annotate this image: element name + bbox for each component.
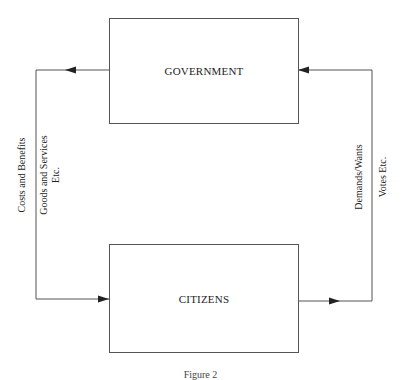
demands-wants-label: Demands/Wants: [353, 132, 365, 222]
etc-label: Etc.: [50, 125, 62, 225]
citizens-label: CITIZENS: [179, 293, 229, 305]
government-label: GOVERNMENT: [165, 65, 244, 77]
arrow-left-icon: [298, 67, 309, 74]
government-box: GOVERNMENT: [109, 18, 299, 124]
figure-caption: Figure 2: [0, 369, 401, 380]
arrow-left-icon: [65, 67, 76, 74]
votes-etc-label: Votes Etc.: [377, 132, 389, 222]
goods-services-label: Goods and Services: [38, 125, 50, 225]
costs-benefits-label: Costs and Benefits: [16, 125, 28, 225]
arrow-right-icon: [329, 298, 340, 305]
citizens-box: CITIZENS: [109, 244, 299, 353]
arrow-right-icon: [98, 296, 109, 303]
